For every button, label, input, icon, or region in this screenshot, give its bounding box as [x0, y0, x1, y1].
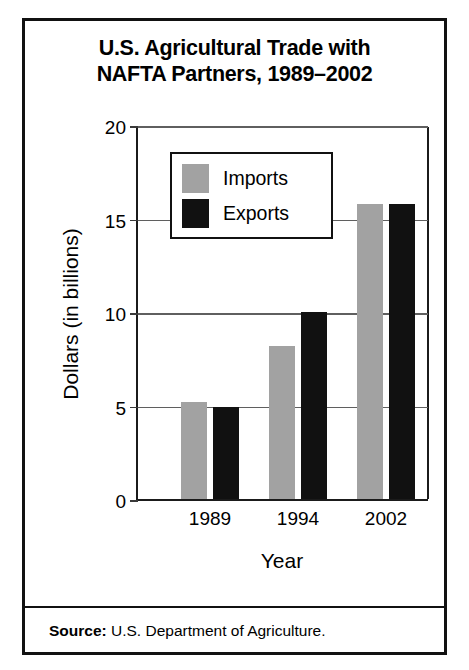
bar-exports-1994 — [301, 312, 327, 499]
bar-imports-1994 — [269, 346, 295, 499]
chart-title: U.S. Agricultural Trade with NAFTA Partn… — [25, 35, 444, 87]
bar-imports-1989 — [181, 402, 207, 499]
legend-item-exports: Exports — [182, 196, 331, 231]
chart-title-line-2: NAFTA Partners, 1989–2002 — [25, 61, 444, 87]
x-axis-title-label: Year — [261, 549, 303, 572]
y-tick-mark-20 — [130, 126, 138, 128]
source-text: U.S. Department of Agriculture. — [107, 622, 326, 639]
x-tick-label-2002: 2002 — [365, 508, 407, 530]
y-axis-title-label: Dollars (in billions) — [59, 228, 83, 400]
chart-figure-frame: U.S. Agricultural Trade with NAFTA Partn… — [22, 18, 447, 655]
legend-item-imports: Imports — [182, 161, 331, 196]
legend-label-exports: Exports — [223, 204, 289, 224]
source-divider — [25, 606, 444, 609]
chart-legend: Imports Exports — [170, 152, 333, 239]
y-tick-mark-0 — [130, 500, 138, 502]
y-tick-label-5: 5 — [115, 398, 126, 417]
y-tick-mark-10 — [130, 313, 138, 315]
y-tick-label-0: 0 — [115, 492, 126, 511]
x-tick-label-1989: 1989 — [189, 508, 231, 530]
bar-imports-2002 — [357, 204, 383, 499]
y-tick-label-20: 20 — [105, 118, 126, 137]
source-label: Source: — [49, 622, 107, 639]
bar-exports-1989 — [213, 407, 239, 499]
x-tick-label-1994: 1994 — [277, 508, 319, 530]
x-axis-title: Year — [136, 549, 428, 573]
y-tick-mark-15 — [130, 220, 138, 222]
y-tick-mark-5 — [130, 407, 138, 409]
bar-group-2002 — [357, 127, 415, 499]
y-tick-label-10: 10 — [105, 305, 126, 324]
y-axis-title: Dollars (in billions) — [57, 127, 85, 501]
legend-swatch-imports-icon — [182, 164, 209, 193]
chart-title-line-1: U.S. Agricultural Trade with — [25, 35, 444, 61]
bar-exports-2002 — [389, 204, 415, 499]
legend-label-imports: Imports — [223, 169, 288, 189]
gridline-0 — [138, 500, 428, 502]
legend-swatch-exports-icon — [182, 199, 209, 228]
source-note: Source: U.S. Department of Agriculture. — [49, 622, 326, 640]
y-tick-label-15: 15 — [105, 211, 126, 230]
